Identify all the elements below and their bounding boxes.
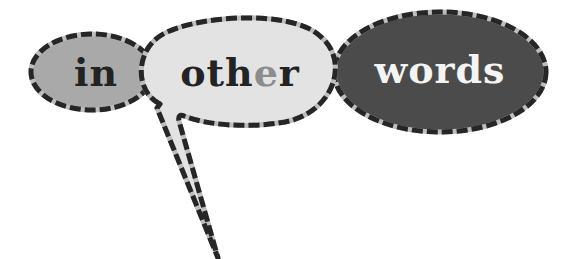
word-other-part1: oth [180,50,254,95]
word-other-accent-letter: e [254,50,279,95]
in-other-words-logo: in other words [0,0,574,259]
word-words: words [373,47,505,92]
word-other: other [180,50,300,95]
word-in: in [74,50,118,95]
word-other-part3: r [279,50,300,95]
